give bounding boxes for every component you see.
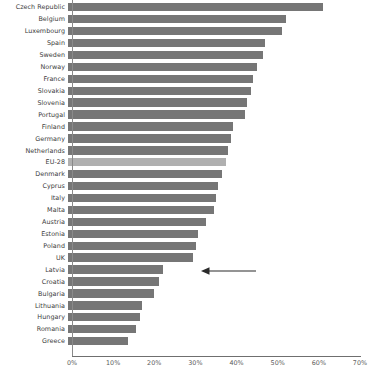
category-label: Poland bbox=[0, 243, 68, 250]
bar-track bbox=[68, 133, 372, 145]
bar-chart: Czech RepublicBelgiumLuxembourgSpainSwed… bbox=[0, 0, 372, 381]
category-label: Spain bbox=[0, 40, 68, 47]
category-label: Czech Republic bbox=[0, 4, 68, 11]
bar bbox=[68, 242, 196, 250]
bar-track bbox=[68, 312, 372, 324]
chart-row: Sweden bbox=[0, 50, 372, 62]
category-label: UK bbox=[0, 255, 68, 262]
chart-row: Luxembourg bbox=[0, 26, 372, 38]
bar-track bbox=[68, 181, 372, 193]
bar-track bbox=[68, 26, 372, 38]
category-label: Estonia bbox=[0, 231, 68, 238]
chart-row: Denmark bbox=[0, 169, 372, 181]
chart-row: Estonia bbox=[0, 229, 372, 241]
bar bbox=[68, 39, 265, 47]
bar bbox=[68, 122, 233, 130]
bar bbox=[68, 63, 257, 71]
bar bbox=[68, 110, 245, 118]
chart-row: Cyprus bbox=[0, 181, 372, 193]
bar bbox=[68, 325, 136, 333]
x-tick-label: 50% bbox=[271, 359, 285, 367]
bar bbox=[68, 313, 140, 321]
bar-track bbox=[68, 288, 372, 300]
bar bbox=[68, 15, 286, 23]
bar bbox=[68, 337, 128, 345]
bar-track bbox=[68, 14, 372, 26]
bar bbox=[68, 265, 163, 273]
category-label: Slovakia bbox=[0, 88, 68, 95]
bar-track bbox=[68, 336, 372, 348]
bar-track bbox=[68, 240, 372, 252]
category-label: Norway bbox=[0, 64, 68, 71]
x-tick-label: 30% bbox=[188, 359, 202, 367]
chart-row: Belgium bbox=[0, 14, 372, 26]
chart-row: EU-28 bbox=[0, 157, 372, 169]
x-tick-label: 0% bbox=[67, 359, 77, 367]
bar bbox=[68, 289, 154, 297]
category-label: EU-28 bbox=[0, 159, 68, 166]
bar-track bbox=[68, 276, 372, 288]
x-tick-label: 40% bbox=[229, 359, 243, 367]
bar bbox=[68, 3, 323, 11]
x-tick-label: 60% bbox=[312, 359, 326, 367]
category-label: Finland bbox=[0, 124, 68, 131]
chart-row: France bbox=[0, 74, 372, 86]
bar bbox=[68, 253, 193, 261]
bar-track bbox=[68, 157, 372, 169]
category-label: Cyprus bbox=[0, 183, 68, 190]
chart-row: Germany bbox=[0, 133, 372, 145]
category-label: Austria bbox=[0, 219, 68, 226]
category-label: France bbox=[0, 76, 68, 83]
x-axis-line bbox=[72, 356, 361, 357]
bar bbox=[68, 182, 218, 190]
chart-row: Malta bbox=[0, 205, 372, 217]
chart-row: Poland bbox=[0, 240, 372, 252]
chart-row: Portugal bbox=[0, 109, 372, 121]
bar bbox=[68, 27, 282, 35]
bar-track bbox=[68, 74, 372, 86]
bar-track bbox=[68, 217, 372, 229]
bar-track bbox=[68, 229, 372, 241]
bar-track bbox=[68, 97, 372, 109]
chart-rows: Czech RepublicBelgiumLuxembourgSpainSwed… bbox=[0, 2, 372, 348]
bar-track bbox=[68, 85, 372, 97]
chart-row: Croatia bbox=[0, 276, 372, 288]
bar-track bbox=[68, 145, 372, 157]
bar bbox=[68, 301, 142, 309]
bar bbox=[68, 277, 159, 285]
chart-row: Finland bbox=[0, 121, 372, 133]
chart-row: Austria bbox=[0, 217, 372, 229]
bar-track bbox=[68, 300, 372, 312]
chart-row: Slovenia bbox=[0, 97, 372, 109]
bar bbox=[68, 146, 228, 154]
chart-row: Latvia bbox=[0, 264, 372, 276]
x-tick-label: 10% bbox=[106, 359, 120, 367]
category-label: Denmark bbox=[0, 171, 68, 178]
bar-track bbox=[68, 169, 372, 181]
chart-row: Norway bbox=[0, 62, 372, 74]
y-axis-spine bbox=[72, 0, 73, 356]
category-label: Romania bbox=[0, 326, 68, 333]
chart-row: UK bbox=[0, 252, 372, 264]
bar-track bbox=[68, 62, 372, 74]
chart-row: Spain bbox=[0, 38, 372, 50]
chart-row: Lithuania bbox=[0, 300, 372, 312]
bar-track bbox=[68, 121, 372, 133]
bar bbox=[68, 158, 226, 166]
chart-row: Netherlands bbox=[0, 145, 372, 157]
bar-track bbox=[68, 205, 372, 217]
category-label: Lithuania bbox=[0, 303, 68, 310]
category-label: Sweden bbox=[0, 52, 68, 59]
category-label: Portugal bbox=[0, 112, 68, 119]
bar-track bbox=[68, 193, 372, 205]
category-label: Netherlands bbox=[0, 148, 68, 155]
bar bbox=[68, 170, 222, 178]
chart-row: Greece bbox=[0, 336, 372, 348]
category-label: Slovenia bbox=[0, 100, 68, 107]
bar bbox=[68, 75, 253, 83]
bar bbox=[68, 134, 231, 142]
chart-row: Bulgaria bbox=[0, 288, 372, 300]
bar bbox=[68, 51, 263, 59]
bar-track bbox=[68, 252, 372, 264]
x-tick-label: 70% bbox=[353, 359, 367, 367]
